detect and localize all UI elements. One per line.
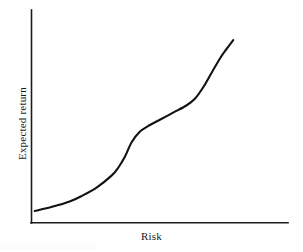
scan-artifact [0, 243, 96, 250]
expected-return-curve [35, 40, 234, 211]
x-axis-label: Risk [0, 230, 303, 242]
risk-return-chart-figure: Risk Expected return [0, 0, 303, 252]
axes-group [31, 10, 288, 223]
y-axis-label: Expected return [16, 144, 32, 160]
data-group [35, 40, 234, 211]
chart-canvas [0, 0, 303, 252]
